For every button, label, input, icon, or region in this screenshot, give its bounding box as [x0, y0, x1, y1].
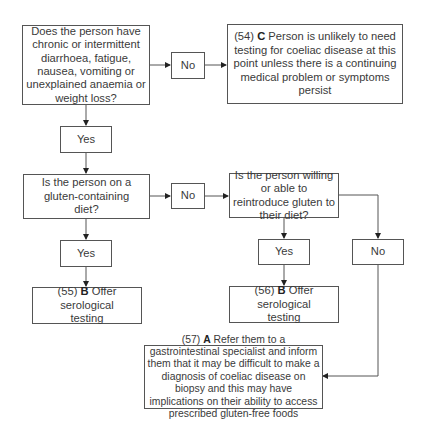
question-symptoms-box: Does the person have chronic or intermit… [22, 25, 150, 105]
yes-label-box-3: Yes [258, 239, 310, 265]
recommendation-54-text: (54) C Person is unlikely to need testin… [228, 30, 402, 97]
recommendation-57-text: (57) A Refer them to a gastrointestinal … [145, 334, 322, 421]
yes-label-box-2: Yes [60, 240, 112, 267]
question-reintroduce-gluten-text: Is the person willing or able to reintro… [230, 169, 338, 223]
recommendation-55-text: (55) B Offer serological testing [33, 285, 141, 325]
no-label-text: No [371, 245, 385, 258]
recommendation-body: Refer them to a gastrointestinal special… [148, 334, 320, 419]
evidence-grade: B [278, 284, 286, 296]
question-symptoms-text: Does the person have chronic or intermit… [23, 25, 149, 105]
no-label-box-1: No [171, 52, 205, 79]
recommendation-number: (57) [182, 334, 200, 345]
yes-label-text: Yes [275, 245, 293, 258]
recommendation-55-box: (55) B Offer serological testing [32, 287, 142, 324]
question-reintroduce-gluten-box: Is the person willing or able to reintro… [229, 173, 339, 218]
recommendation-56-box: (56) B Offer serological testing [229, 286, 339, 323]
recommendation-56-text: (56) B Offer serological testing [230, 284, 338, 324]
yes-label-text: Yes [77, 247, 95, 260]
no-label-text: No [181, 59, 195, 72]
no-label-box-3: No [352, 239, 404, 265]
recommendation-57-box: (57) A Refer them to a gastrointestinal … [144, 345, 323, 409]
recommendation-54-box: (54) C Person is unlikely to need testin… [227, 24, 403, 104]
question-gluten-diet-box: Is the person on a gluten-containing die… [23, 174, 150, 219]
no-label-box-2: No [171, 183, 205, 209]
recommendation-number: (56) [255, 284, 275, 296]
recommendation-number: (55) [58, 285, 78, 297]
recommendation-number: (54) [234, 30, 254, 42]
evidence-grade: C [257, 30, 265, 42]
yes-label-text: Yes [77, 133, 95, 146]
question-gluten-diet-text: Is the person on a gluten-containing die… [24, 176, 149, 216]
no-label-text: No [181, 189, 195, 202]
evidence-grade: B [81, 285, 89, 297]
yes-label-box-1: Yes [60, 126, 112, 153]
evidence-grade: A [203, 334, 211, 345]
